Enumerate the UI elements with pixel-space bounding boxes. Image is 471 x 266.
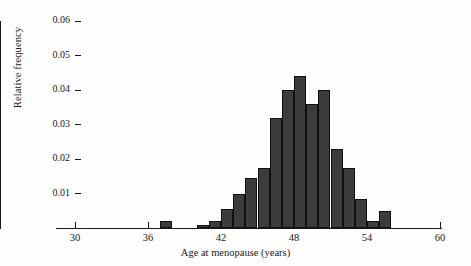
y-axis-tick [75, 193, 81, 194]
x-axis-line [56, 228, 442, 229]
histogram-bar [282, 90, 294, 228]
histogram-bar [270, 118, 282, 228]
x-axis-tick-label: 54 [347, 232, 387, 243]
x-axis-tick-label: 42 [201, 232, 241, 243]
histogram-bar [331, 149, 343, 228]
x-axis-tick-label: 30 [55, 232, 95, 243]
x-axis-tick-label: 60 [420, 232, 460, 243]
histogram-bar [343, 168, 355, 228]
histogram-bar [306, 104, 318, 228]
histogram-bar [379, 211, 391, 228]
y-axis-tick-label: 0.02 [34, 152, 70, 163]
y-axis-tick [75, 159, 81, 160]
y-axis-tick [75, 21, 81, 22]
y-axis-tick-label: 0.06 [34, 14, 70, 25]
histogram-bar [294, 76, 306, 228]
y-axis-line [0, 21, 1, 229]
histogram-bar [318, 90, 330, 228]
histogram-bar [221, 209, 233, 228]
x-axis-tick [148, 222, 149, 228]
x-axis-tick [440, 222, 441, 228]
histogram-bar [367, 221, 379, 228]
y-axis-tick [75, 90, 81, 91]
x-axis-label: Age at menopause (years) [0, 247, 471, 258]
y-axis-tick [75, 55, 81, 56]
histogram-figure: Relative frequency 0.010.020.030.040.050… [0, 0, 471, 266]
histogram-bar [209, 221, 221, 228]
x-axis-tick-label: 36 [128, 232, 168, 243]
histogram-bar [245, 178, 257, 228]
y-axis-tick-label: 0.01 [34, 187, 70, 198]
y-axis-tick-label: 0.04 [34, 83, 70, 94]
histogram-bar [197, 225, 209, 228]
x-axis-tick [75, 222, 76, 228]
histogram-bar [233, 194, 245, 229]
y-axis-tick [75, 124, 81, 125]
y-axis-tick-label: 0.03 [34, 118, 70, 129]
y-axis-label: Relative frequency [12, 3, 23, 133]
histogram-bar [355, 199, 367, 228]
y-axis-tick-label: 0.05 [34, 49, 70, 60]
x-axis-tick-label: 48 [274, 232, 314, 243]
histogram-bar [160, 221, 172, 228]
histogram-bar [258, 168, 270, 228]
